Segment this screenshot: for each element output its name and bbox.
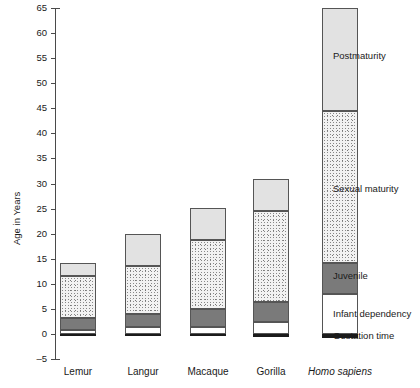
y-tick-label: 60 bbox=[13, 28, 47, 38]
segment-gestation-time bbox=[125, 334, 161, 336]
segment-postmaturity bbox=[60, 263, 96, 277]
y-tick-label: 10 bbox=[13, 279, 47, 289]
y-tick bbox=[51, 184, 55, 185]
segment-postmaturity bbox=[125, 234, 161, 267]
y-tick bbox=[51, 158, 55, 159]
y-tick-label: 55 bbox=[13, 53, 47, 63]
y-tick-label: 0 bbox=[13, 329, 47, 339]
segment-gestation-time bbox=[190, 334, 226, 337]
bar-lemur bbox=[60, 0, 96, 388]
y-tick bbox=[51, 284, 55, 285]
x-axis-label-homo-sapiens: Homo sapiens bbox=[285, 366, 395, 378]
y-tick-label: 45 bbox=[13, 103, 47, 113]
segment-postmaturity bbox=[253, 179, 289, 211]
segment-sexual-maturity bbox=[125, 266, 161, 314]
y-tick bbox=[51, 309, 55, 310]
bar-macaque bbox=[190, 0, 226, 388]
legend-label-gestation-time: Gestation time bbox=[333, 330, 394, 341]
y-tick bbox=[51, 209, 55, 210]
segment-gestation-time bbox=[253, 334, 289, 338]
segment-gestation-time bbox=[60, 334, 96, 336]
y-tick-label: 35 bbox=[13, 153, 47, 163]
y-tick-label: 30 bbox=[13, 179, 47, 189]
y-tick bbox=[51, 334, 55, 335]
y-tick-label: 50 bbox=[13, 78, 47, 88]
legend-label-infant-dependency: Infant dependency bbox=[333, 308, 411, 319]
legend-label-postmaturity: Postmaturity bbox=[333, 50, 386, 61]
y-tick bbox=[51, 33, 55, 34]
segment-juvenile bbox=[253, 302, 289, 322]
y-axis-title: Age in Years bbox=[11, 192, 22, 245]
bar-gorilla bbox=[253, 0, 289, 388]
y-tick bbox=[51, 108, 55, 109]
y-tick-label: 40 bbox=[13, 128, 47, 138]
y-tick-label: –5 bbox=[13, 354, 47, 364]
primate-life-history-stacked-bar-chart: –505101520253035404550556065Age in Years… bbox=[0, 0, 420, 388]
legend-label-juvenile: Juvenile bbox=[333, 270, 368, 281]
y-tick bbox=[51, 83, 55, 84]
segment-juvenile bbox=[125, 314, 161, 328]
y-tick-label: 5 bbox=[13, 304, 47, 314]
y-tick-label: 15 bbox=[13, 254, 47, 264]
y-tick bbox=[51, 259, 55, 260]
segment-juvenile bbox=[60, 318, 96, 331]
y-tick bbox=[51, 234, 55, 235]
y-tick-label: 65 bbox=[13, 3, 47, 13]
legend-label-sexual-maturity: Sexual maturity bbox=[333, 183, 398, 194]
y-axis-line bbox=[55, 8, 56, 359]
y-tick bbox=[51, 58, 55, 59]
segment-postmaturity bbox=[190, 208, 226, 240]
segment-sexual-maturity bbox=[60, 276, 96, 318]
segment-juvenile bbox=[190, 309, 226, 328]
y-tick bbox=[51, 133, 55, 134]
segment-sexual-maturity bbox=[190, 240, 226, 309]
bar-langur bbox=[125, 0, 161, 388]
segment-infant-dependency bbox=[253, 322, 289, 334]
segment-sexual-maturity bbox=[253, 211, 289, 302]
